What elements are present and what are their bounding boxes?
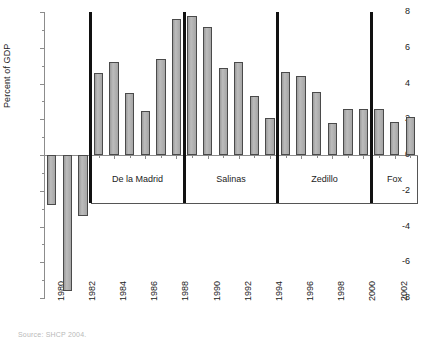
bar xyxy=(281,72,290,155)
president-band: De la MadridSalinasZedilloFox xyxy=(44,156,418,204)
president-band-label: Zedillo xyxy=(278,174,372,184)
bar xyxy=(234,62,243,155)
bar xyxy=(359,109,368,155)
bar xyxy=(390,122,399,155)
bar xyxy=(312,92,321,155)
bar xyxy=(296,76,305,155)
bar xyxy=(203,27,212,155)
bar xyxy=(265,118,274,155)
bar xyxy=(343,109,352,155)
bar xyxy=(156,59,165,155)
bar xyxy=(374,109,383,155)
bar xyxy=(125,93,134,155)
y-axis-title: Percent of GDP xyxy=(2,0,12,108)
president-band-label: Fox xyxy=(371,174,418,184)
bar xyxy=(141,111,150,155)
bar xyxy=(187,16,196,155)
president-band-label: De la Madrid xyxy=(91,174,185,184)
era-divider xyxy=(89,12,92,203)
bar xyxy=(406,117,415,155)
president-band-label: Salinas xyxy=(184,174,278,184)
era-divider xyxy=(276,12,279,203)
bar xyxy=(219,68,228,155)
bar xyxy=(328,123,337,155)
bar xyxy=(94,73,103,155)
era-divider xyxy=(370,12,373,203)
era-divider xyxy=(183,12,186,203)
source-footnote: Source: SHCP 2004. xyxy=(18,331,86,338)
bar xyxy=(250,96,259,155)
chart-figure: Percent of GDP 86420-2-4-6-8 19801982198… xyxy=(0,0,424,342)
bar xyxy=(172,19,181,155)
bar xyxy=(109,62,118,155)
plot-area: 86420-2-4-6-8 19801982198419861988199019… xyxy=(44,12,418,299)
